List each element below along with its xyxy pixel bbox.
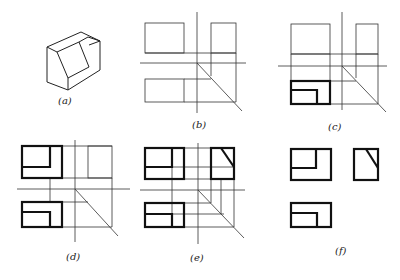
panel-b-framework: [140, 12, 246, 113]
panel-a-isometric: [47, 32, 100, 90]
panel-c-top-view: [278, 12, 387, 112]
panel-e-label: (e): [190, 252, 204, 263]
panel-a-label: (a): [58, 95, 72, 106]
panel-f-final-views: [291, 149, 378, 227]
panel-c-label: (c): [328, 121, 342, 132]
panel-d-front-view: [17, 140, 130, 242]
panel-b-label: (b): [192, 119, 206, 130]
panel-d-label: (d): [66, 251, 80, 262]
panel-f-label: (f): [335, 245, 347, 256]
diagram-canvas: (a) (b) (c): [0, 0, 400, 280]
panel-e-side-view: [140, 143, 245, 244]
